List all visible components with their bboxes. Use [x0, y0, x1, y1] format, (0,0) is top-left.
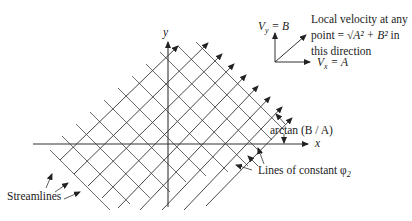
vy-label: Vy = B — [258, 20, 289, 37]
equipotential-lines — [50, 42, 284, 210]
y-axis-label: y — [163, 26, 168, 39]
angle-arrow-upper — [276, 114, 285, 124]
velocity-arrow — [275, 35, 306, 62]
velocity-description: Local velocity at any point = √A² + B² i… — [311, 11, 408, 59]
x-axis-label: x — [315, 137, 320, 150]
phi-lines-label: Lines of constant φ2 — [258, 164, 351, 181]
angle-label: arctan (B / A) — [270, 124, 333, 137]
streamlines-label: Streamlines — [7, 190, 61, 203]
